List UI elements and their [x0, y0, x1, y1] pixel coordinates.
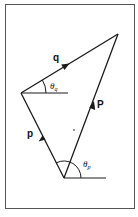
arrowhead-icon — [61, 64, 69, 70]
vector-q-label: q — [53, 52, 59, 63]
vector-p: p — [21, 93, 64, 178]
vector-diagram: p q P θq θp — [0, 0, 138, 217]
vector-q: q — [21, 34, 118, 93]
vector-p-label: p — [27, 128, 33, 139]
angle-label-theta-q: θq — [50, 81, 57, 92]
angle-arc-theta-q — [42, 80, 46, 93]
vector-P: P — [64, 34, 118, 178]
center-dot — [73, 129, 75, 131]
vector-P-label: P — [97, 99, 104, 110]
angle-label-theta-p: θp — [83, 159, 90, 170]
